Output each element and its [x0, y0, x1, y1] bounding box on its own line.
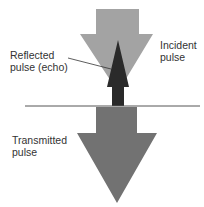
pulse-diagram [0, 0, 204, 207]
incident-pulse-label: Incident pulse [160, 39, 197, 63]
reflected-label-line2: pulse (echo) [10, 61, 68, 73]
transmitted-pulse-arrow [77, 107, 157, 203]
incident-label-line1: Incident [160, 39, 197, 51]
reflected-label-line1: Reflected [10, 49, 68, 61]
transmitted-label-line1: Transmitted [12, 134, 67, 146]
incident-label-line2: pulse [160, 51, 197, 63]
transmitted-label-line2: pulse [12, 146, 67, 158]
reflected-pulse-label: Reflected pulse (echo) [10, 49, 68, 73]
transmitted-pulse-label: Transmitted pulse [12, 134, 67, 158]
